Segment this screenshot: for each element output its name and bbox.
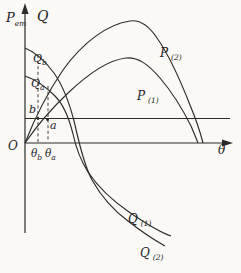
y-axis-label-q: Q xyxy=(37,8,49,24)
curve-p2-label: P(2) xyxy=(159,46,182,62)
origin-label: O xyxy=(8,139,18,153)
curve-p1-label: P(1) xyxy=(136,89,159,105)
point-b-label: b xyxy=(29,103,36,116)
point-qb-label: Qb xyxy=(33,52,47,67)
figure-canvas: Pem Q O θ θb θa b a Qb Qa P(2) P(1) Q(1)… xyxy=(0,0,241,273)
point-qa-label: Qa xyxy=(31,77,45,92)
y-axis-arrow-icon xyxy=(22,3,29,14)
curve-q2-label: Q(2) xyxy=(140,246,164,262)
x-axis-label-theta: θ xyxy=(218,143,226,157)
power-angle-characteristics-figure: Pem Q O θ θb θa b a Qb Qa P(2) P(1) Q(1)… xyxy=(0,0,241,273)
tick-label-theta-b: θb xyxy=(31,147,42,162)
point-b-dot xyxy=(37,117,40,120)
curve-q1-label: Q(1) xyxy=(128,212,152,228)
point-a-label: a xyxy=(50,119,57,132)
tick-label-theta-a: θa xyxy=(45,147,56,162)
point-a-dot xyxy=(46,118,49,121)
